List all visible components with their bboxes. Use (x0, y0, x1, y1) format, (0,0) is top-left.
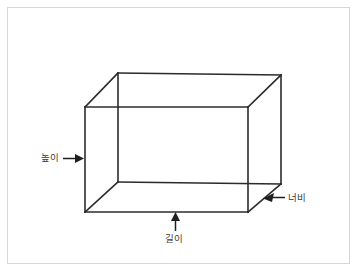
height-label: 높이 (41, 153, 59, 163)
length-arrow (171, 212, 180, 231)
length-arrow-head (171, 212, 180, 221)
height-arrow-head (75, 154, 84, 163)
length-label: 길이 (165, 234, 183, 244)
figure-root: 높이 너비 길이 (0, 0, 359, 275)
cuboid-depth-edges (85, 73, 281, 212)
back-top-edge (118, 73, 281, 75)
cuboid-back-face (118, 73, 281, 184)
height-arrow (63, 154, 84, 163)
width-label: 너비 (288, 193, 306, 203)
width-arrow (263, 193, 285, 202)
depth-edge-top-left (85, 73, 118, 107)
depth-edge-bottom-left (85, 182, 118, 212)
back-bottom-edge (118, 182, 281, 184)
depth-edge-top-right (248, 75, 281, 107)
cuboid-front-face (85, 107, 248, 212)
